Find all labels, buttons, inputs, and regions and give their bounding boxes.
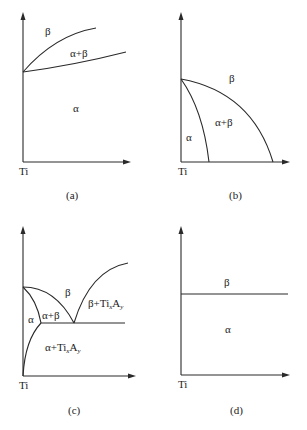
beta-solvus-curve [74, 263, 128, 323]
panel-b: β α+β α Ti (b) [178, 12, 290, 202]
caption-b: (b) [229, 189, 242, 202]
origin-label: Ti [178, 378, 187, 390]
panel-a: β α+β α Ti (a) [19, 12, 131, 202]
caption-a: (a) [66, 189, 79, 202]
panel-c: β α+β α β+TixAy α+TixAy Ti (c) [19, 226, 136, 417]
caption-c: (c) [68, 404, 81, 417]
caption-d: (d) [230, 404, 243, 417]
region-alpha: α [73, 102, 79, 114]
region-alpha-beta: α+β [42, 309, 60, 321]
y-axis-arrow-icon [179, 226, 184, 234]
region-alpha: α [28, 313, 34, 325]
y-axis-arrow-icon [21, 12, 26, 20]
origin-label: Ti [178, 165, 187, 177]
region-alpha: α [225, 323, 231, 335]
x-axis-arrow-icon [282, 373, 290, 378]
region-beta: β [229, 72, 235, 84]
alpha-solvus-curve [23, 323, 41, 376]
x-axis-arrow-icon [282, 160, 290, 165]
region-alpha: α [186, 131, 192, 143]
origin-label: Ti [19, 165, 28, 177]
x-axis-arrow-icon [128, 374, 136, 379]
phase-diagrams-figure: β α+β α Ti (a) β α+β α Ti (b) β α+β α β+… [0, 0, 307, 430]
x-axis-arrow-icon [123, 160, 131, 165]
region-alpha-beta: α+β [215, 116, 233, 128]
region-alpha-compound: α+TixAy [45, 341, 81, 355]
origin-label: Ti [19, 379, 28, 391]
alpha-transus-curve [181, 79, 209, 162]
region-beta: β [45, 25, 51, 37]
region-beta-compound: β+TixAy [88, 297, 124, 311]
region-alpha-beta: α+β [70, 47, 88, 59]
region-beta: β [65, 286, 71, 298]
panel-d: β α Ti (d) [178, 226, 290, 417]
region-beta: β [224, 276, 230, 288]
y-axis-arrow-icon [179, 12, 184, 20]
y-axis-arrow-icon [21, 226, 26, 234]
